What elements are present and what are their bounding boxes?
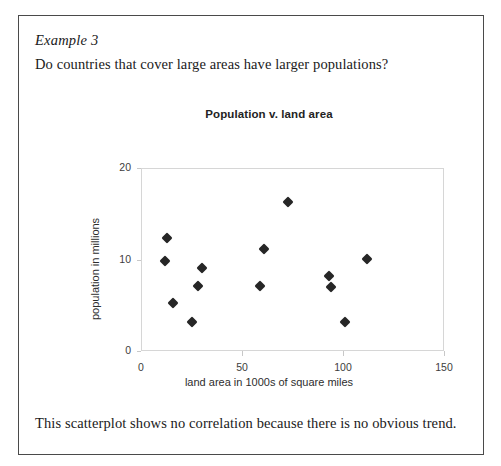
example-caption: This scatterplot shows no correlation be… — [35, 415, 457, 432]
y-axis-tick-label: 20 — [105, 161, 131, 173]
x-axis-tick-label: 0 — [126, 361, 156, 373]
y-axis-tick-label: 10 — [105, 253, 131, 265]
x-axis-tick-label: 50 — [227, 361, 257, 373]
y-axis-label: population in millions — [89, 217, 101, 319]
y-axis-tick-label: 0 — [105, 344, 131, 356]
plot-area — [141, 168, 444, 351]
y-axis-tick — [137, 351, 141, 352]
x-axis-label: land area in 1000s of square miles — [69, 376, 469, 388]
x-axis-tick — [242, 351, 243, 356]
chart-title: Population v. land area — [69, 108, 469, 120]
page-root: Example 3 Do countries that cover large … — [0, 0, 501, 466]
y-axis-tick — [137, 168, 141, 169]
x-axis-tick — [444, 351, 445, 356]
scatter-chart: Population v. land area population in mi… — [69, 108, 469, 403]
x-axis-tick — [343, 351, 344, 356]
x-axis-tick-label: 150 — [429, 361, 459, 373]
example-label: Example 3 — [35, 32, 98, 49]
x-axis-tick-label: 100 — [328, 361, 358, 373]
y-axis-tick — [137, 260, 141, 261]
example-question: Do countries that cover large areas have… — [35, 56, 388, 73]
worked-example-box: Example 3 Do countries that cover large … — [18, 15, 484, 455]
